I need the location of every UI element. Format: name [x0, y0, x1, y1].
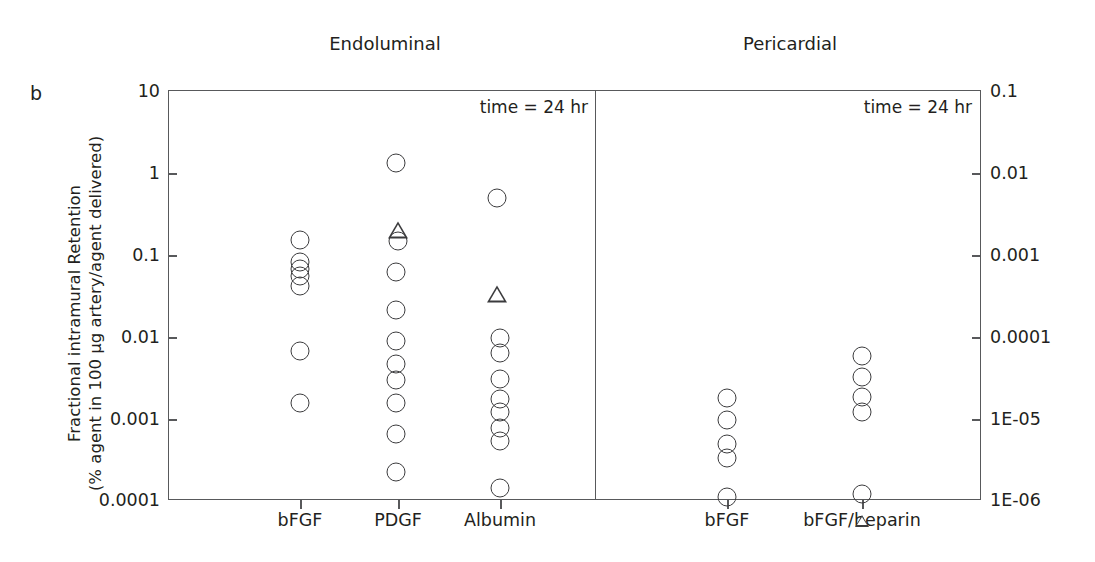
data-point-circle [387, 371, 406, 390]
plot-frame-pericardial [595, 90, 981, 500]
data-point-circle [718, 449, 737, 468]
data-point-circle [291, 394, 310, 413]
xtick-mark-pdgf [398, 500, 400, 509]
data-point-circle [387, 394, 406, 413]
data-point-circle [488, 189, 507, 208]
xtick-label-bfgf-endoluminal: bFGF [278, 510, 323, 530]
data-point-circle [291, 342, 310, 361]
ytick-mark-right-0-0001 [972, 337, 981, 339]
ytick-left-10: 10 [138, 81, 160, 101]
ytick-left-0-1: 0.1 [132, 245, 160, 265]
data-point-circle [491, 479, 510, 498]
ytick-mark-left-1 [168, 173, 177, 175]
data-point-triangle [855, 515, 869, 527]
data-point-circle [853, 347, 872, 366]
data-point-circle [387, 154, 406, 173]
data-point-circle [387, 463, 406, 482]
data-point-circle [387, 425, 406, 444]
data-point-circle [389, 232, 408, 251]
ytick-right-0-01: 0.01 [990, 163, 1029, 183]
time-annotation-endoluminal: time = 24 hr [480, 97, 588, 117]
data-point-circle [853, 403, 872, 422]
data-point-circle [291, 231, 310, 250]
time-annotation-pericardial: time = 24 hr [864, 97, 972, 117]
xtick-label-pdgf: PDGF [374, 510, 422, 530]
data-point-circle [491, 344, 510, 363]
ytick-mark-left-0-001 [168, 419, 177, 421]
ytick-right-0-1: 0.1 [990, 81, 1018, 101]
ytick-right-0-001: 0.001 [990, 245, 1040, 265]
data-point-triangle [487, 286, 507, 303]
ytick-left-0-001: 0.001 [110, 409, 160, 429]
plot-frame-endoluminal [168, 90, 595, 500]
ytick-left-1: 1 [149, 163, 160, 183]
figure-panel-b: b Fractional intramural Retention (% age… [0, 0, 1095, 562]
ytick-left-0-01: 0.01 [121, 327, 160, 347]
ytick-mark-right-0-01 [972, 173, 981, 175]
data-point-circle [387, 263, 406, 282]
data-point-circle [718, 389, 737, 408]
ytick-right-0-0001: 0.0001 [990, 327, 1051, 347]
panel-letter: b [30, 82, 42, 104]
data-point-circle [718, 488, 737, 507]
ytick-left-0-0001: 0.0001 [99, 490, 160, 510]
data-point-circle [387, 301, 406, 320]
ytick-right-1e-06: 1E-06 [990, 490, 1041, 510]
ytick-mark-right-0-001 [972, 255, 981, 257]
data-point-circle [291, 277, 310, 296]
xtick-mark-albumin [500, 500, 502, 509]
data-point-circle [387, 332, 406, 351]
group-title-pericardial: Pericardial [743, 33, 837, 54]
data-point-circle [853, 485, 872, 504]
data-point-circle [491, 432, 510, 451]
xtick-mark-bfgf [300, 500, 302, 509]
xtick-label-albumin: Albumin [464, 510, 536, 530]
y-axis-title: Fractional intramural Retention (% agent… [64, 78, 107, 548]
ytick-mark-left-0-01 [168, 337, 177, 339]
data-point-circle [718, 411, 737, 430]
ytick-mark-left-0-1 [168, 255, 177, 257]
ytick-right-1e-05: 1E-05 [990, 409, 1041, 429]
ytick-mark-right-1e-05 [972, 419, 981, 421]
group-title-endoluminal: Endoluminal [329, 33, 441, 54]
data-point-circle [853, 368, 872, 387]
data-point-circle [491, 370, 510, 389]
xtick-label-bfgf-pericardial: bFGF [705, 510, 750, 530]
